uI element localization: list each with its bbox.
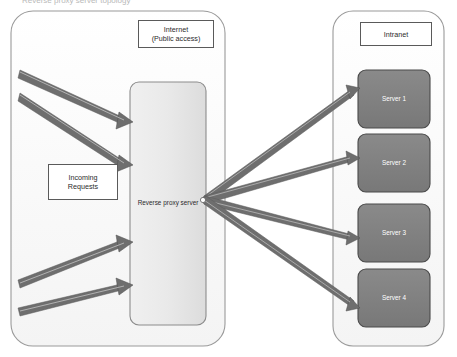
reverse-proxy-box [130,82,206,325]
diagram-canvas: Reverse proxy server topology Internet (… [0,0,457,357]
server-box-4 [358,269,430,327]
server-box-2 [358,134,430,192]
server-box-1 [358,70,430,128]
fanout-origin-node [200,197,205,202]
diagram-svg-layer [0,0,457,357]
server-box-3 [358,204,430,262]
